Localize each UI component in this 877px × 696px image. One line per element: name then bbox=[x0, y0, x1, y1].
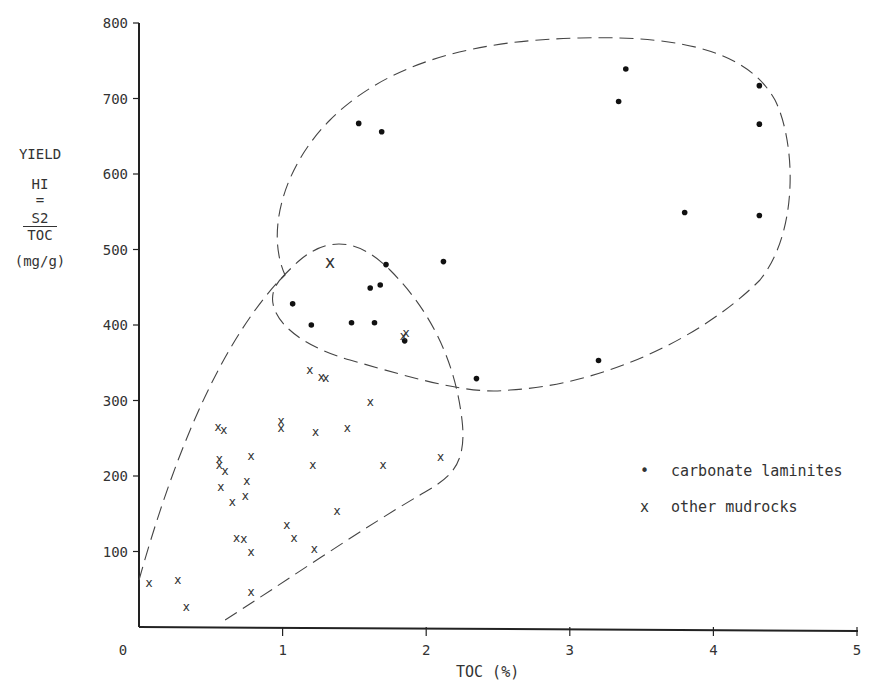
x-tick-label: 1 bbox=[278, 642, 286, 658]
y-title-toc: TOC bbox=[23, 226, 56, 243]
data-point-cross: x bbox=[322, 371, 329, 385]
data-point-dot bbox=[757, 213, 763, 219]
data-point-dot bbox=[757, 121, 763, 127]
data-point-cross: x bbox=[145, 576, 152, 590]
dot-marker-icon: • bbox=[640, 462, 662, 480]
data-point-cross: x bbox=[306, 363, 313, 377]
other-mudrocks-series: xxxxxxxxxxxxxxxxxxxxxxxxxxxxxxxxxxx bbox=[145, 252, 444, 614]
data-point-cross: x bbox=[334, 504, 341, 518]
legend-label: other mudrocks bbox=[671, 498, 797, 516]
x-marker-icon: x bbox=[640, 498, 662, 516]
y-tick-label: 300 bbox=[103, 393, 128, 409]
data-point-dot bbox=[356, 121, 362, 127]
data-point-cross: x bbox=[217, 480, 224, 494]
data-point-cross: x bbox=[229, 495, 236, 509]
data-point-cross: x bbox=[242, 489, 249, 503]
data-point-dot bbox=[441, 259, 447, 265]
x-tick-label: 0 bbox=[119, 642, 127, 658]
data-point-cross: x bbox=[400, 329, 407, 343]
data-point-dot bbox=[383, 262, 389, 268]
data-point-cross: x bbox=[437, 450, 444, 464]
data-point-dot bbox=[757, 83, 763, 89]
data-point-cross: x bbox=[380, 458, 387, 472]
y-tick-label: 800 bbox=[103, 15, 128, 31]
y-tick-label: 600 bbox=[103, 166, 128, 182]
legend-item-mudrocks: x other mudrocks bbox=[640, 498, 843, 516]
data-point-dot bbox=[367, 285, 373, 291]
x-tick-label: 2 bbox=[422, 642, 430, 658]
data-point-cross: x bbox=[243, 474, 250, 488]
data-point-dot bbox=[379, 129, 385, 135]
data-point-dot bbox=[349, 320, 355, 326]
x-tick-label: 4 bbox=[709, 642, 717, 658]
data-point-cross: x bbox=[220, 423, 227, 437]
data-point-cross: x bbox=[325, 252, 335, 272]
data-point-dot bbox=[682, 210, 688, 216]
x-axis-title: TOC (%) bbox=[456, 663, 519, 681]
data-point-dot bbox=[474, 376, 480, 382]
data-point-dot bbox=[290, 301, 296, 307]
data-point-cross: x bbox=[174, 573, 181, 587]
y-tick-label: 500 bbox=[103, 242, 128, 258]
y-title-equals: = bbox=[10, 192, 70, 208]
y-tick-label: 100 bbox=[103, 544, 128, 560]
data-point-cross: x bbox=[222, 464, 229, 478]
data-point-dot bbox=[596, 358, 602, 364]
legend-label: carbonate laminites bbox=[671, 462, 843, 480]
data-point-cross: x bbox=[183, 600, 190, 614]
y-tick-label: 700 bbox=[103, 91, 128, 107]
axis-tick-labels: 012345100200300400500600700800 bbox=[103, 15, 862, 658]
x-tick-label: 5 bbox=[853, 642, 861, 658]
data-point-cross: x bbox=[283, 518, 290, 532]
y-tick-label: 400 bbox=[103, 317, 128, 333]
data-point-dot bbox=[623, 66, 629, 72]
data-point-cross: x bbox=[240, 532, 247, 546]
scatter-plot: 012345100200300400500600700800 xxxxxxxxx… bbox=[0, 0, 877, 696]
y-title-hi: HI bbox=[10, 176, 70, 192]
y-title-yield: YIELD bbox=[10, 146, 70, 162]
carbonate-laminites-series bbox=[290, 66, 762, 381]
y-title-s2: S2 bbox=[10, 210, 70, 226]
data-point-cross: x bbox=[312, 425, 319, 439]
data-point-cross: x bbox=[291, 531, 298, 545]
data-point-cross: x bbox=[311, 542, 318, 556]
data-point-cross: x bbox=[233, 531, 240, 545]
y-axis-title: YIELD HI = S2 TOC (mg/g) bbox=[10, 146, 70, 269]
data-point-cross: x bbox=[367, 395, 374, 409]
carbonate-laminites-envelope bbox=[273, 38, 791, 391]
data-point-cross: x bbox=[309, 458, 316, 472]
data-point-cross: x bbox=[247, 545, 254, 559]
data-point-dot bbox=[372, 320, 378, 326]
data-point-dot bbox=[616, 99, 622, 105]
legend: • carbonate laminites x other mudrocks bbox=[640, 462, 843, 516]
data-point-dot bbox=[309, 322, 315, 328]
data-point-cross: x bbox=[247, 449, 254, 463]
data-point-cross: x bbox=[344, 421, 351, 435]
x-tick-label: 3 bbox=[566, 642, 574, 658]
data-point-cross: x bbox=[278, 421, 285, 435]
y-tick-label: 200 bbox=[103, 468, 128, 484]
y-title-units: (mg/g) bbox=[10, 253, 70, 269]
data-point-dot bbox=[377, 282, 383, 288]
data-point-cross: x bbox=[247, 585, 254, 599]
other-mudrocks-envelope bbox=[139, 244, 463, 622]
legend-item-carbonate: • carbonate laminites bbox=[640, 462, 843, 480]
